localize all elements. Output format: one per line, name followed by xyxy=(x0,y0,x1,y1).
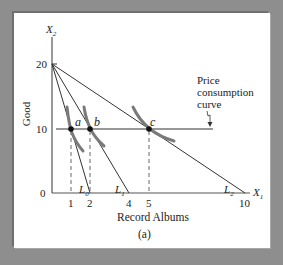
pcc-annotation-line-3: curve xyxy=(197,98,254,110)
point-label-b: b xyxy=(94,116,100,128)
pcc-arrowhead-icon xyxy=(208,122,213,127)
x-tick-label-5: 5 xyxy=(146,197,152,209)
x-axis-title: Record Albums xyxy=(117,211,189,223)
pcc-annotation: Price consumption curve xyxy=(197,74,254,110)
point-label-a: a xyxy=(75,116,81,128)
y-axis-symbol: X2 xyxy=(46,23,56,40)
point-a xyxy=(68,126,74,132)
budget-label-l1: L1 xyxy=(115,183,125,200)
pcc-annotation-line-2: consumption xyxy=(197,86,254,98)
y-tick-label-20: 20 xyxy=(36,58,47,70)
x-tick-label-4: 4 xyxy=(126,197,132,209)
point-b xyxy=(87,126,93,132)
x-tick-label-10: 10 xyxy=(239,197,250,209)
figure-caption: (a) xyxy=(138,228,151,240)
origin-label: 0 xyxy=(40,187,46,199)
pcc-annotation-line-1: Price xyxy=(197,74,254,86)
y-axis-title: Good xyxy=(20,94,32,134)
x-tick-label-1: 1 xyxy=(68,197,74,209)
y-tick-label-10: 10 xyxy=(36,123,47,135)
budget-label-l2: L2 xyxy=(224,183,234,200)
x-axis-symbol: X1 xyxy=(253,186,263,203)
budget-label-l0: L0 xyxy=(79,183,89,200)
point-label-c: c xyxy=(150,116,155,128)
